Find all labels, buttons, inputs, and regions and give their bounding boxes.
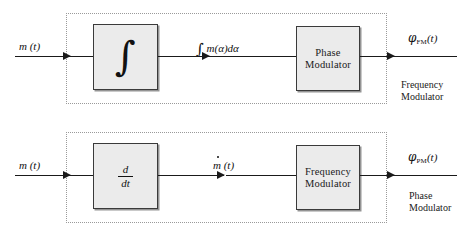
frequency-modulator-caption: Frequency Modulator [401,79,443,102]
row2-middle-arrowhead [217,171,225,179]
phase-modulator-block-label-line2: Modulator [305,59,351,71]
phase-modulator-caption-line2: Modulator [409,202,451,214]
frequency-modulator-caption-line2: Modulator [401,91,443,103]
row1-input-label: m (t) [19,40,40,52]
integrator-block[interactable]: ∫ [93,24,158,90]
frequency-modulator-block-label: Frequency Modulator [305,166,351,190]
row1-output-arg: (t) [427,32,437,44]
frequency-modulator-block-label-line1: Frequency [305,166,351,177]
row1-input-arrowhead [63,52,71,60]
phase-modulator-block-label: Phase Modulator [305,47,351,71]
integral-icon: ∫ [115,36,136,76]
derivative-numerator: d [118,163,133,176]
row2-output-subscript: PM [416,157,427,165]
phase-modulator-caption-line1: Phase [409,190,432,201]
derivative-fraction-icon: d dt [118,163,133,189]
row2-output-wire-2 [395,175,457,176]
row2-output-label: φPM(t) [408,150,437,165]
phase-modulator-caption: Phase Modulator [409,190,451,213]
row2-input-wire-2 [73,175,94,176]
row2-middle-wire-2 [226,175,297,176]
phase-modulator-block-label-line1: Phase [315,47,341,58]
frequency-modulator-block-label-line2: Modulator [305,178,351,190]
row1-middle-arrowhead [202,52,210,60]
row1-output-arrowhead [387,52,395,60]
m-dot-symbol: m [213,159,221,171]
row2-middle-wire [158,175,224,176]
diagram-canvas: m (t) ∫ ∫ m(α)dα Phase Modulator φFM(t) … [0,0,472,232]
derivative-denominator: dt [118,176,133,190]
row1-middle-wire-2 [212,56,297,57]
row2-output-arrowhead [387,171,395,179]
row2-input-arrowhead [63,171,71,179]
row2-intermediate-arg: (t) [221,159,234,171]
row2-output-arg: (t) [427,151,437,163]
differentiator-block[interactable]: d dt [93,143,158,209]
frequency-modulator-block[interactable]: Frequency Modulator [296,145,360,210]
row1-output-wire-2 [395,56,457,57]
row1-input-wire-2 [73,56,94,57]
row1-output-subscript: FM [416,38,427,46]
row1-output-label: φFM(t) [408,31,437,46]
frequency-modulator-caption-line1: Frequency [401,79,443,90]
row2-intermediate-label: m (t) [213,159,234,171]
row2-input-label: m (t) [19,159,40,171]
phase-modulator-block[interactable]: Phase Modulator [296,26,360,91]
